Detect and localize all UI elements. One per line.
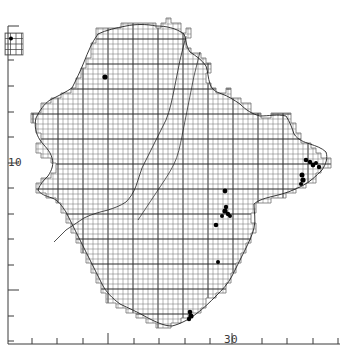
x-axis-tick-label-30: 30 — [224, 333, 238, 346]
y-axis-ticks — [8, 26, 19, 341]
x-axis-ticks — [32, 333, 338, 344]
axis-layer — [0, 0, 343, 351]
y-axis-tick-label-10: 10 — [8, 156, 22, 169]
distribution-map-figure: 10 30 — [0, 0, 343, 351]
